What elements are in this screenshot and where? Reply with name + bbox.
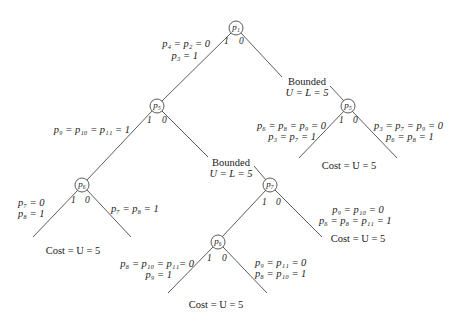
branch-label-p5l-zero: 0 [162,115,167,125]
bounded-mid-title: Bounded [204,157,258,168]
node-p6-left: p₆ [72,179,92,190]
annotation-p5r-right-line2: p₆ = p₈ = 1 [386,131,434,142]
annotation-p6b-left-line2: p₉ = 1 [120,269,172,280]
annotation-p6l-left-line1: p₇ = 0 [18,197,45,208]
branch-label-p5r-one: 1 [339,115,344,125]
branch-label-p5r-zero: 0 [353,115,358,125]
branch-label-p6l-zero: 0 [85,195,90,205]
annotation-p7-right-line2: p₆ = p₈ = p₁₁ = 1 [319,215,392,226]
annotation-root-left-line2: p₃ = 1 [140,50,198,61]
edge-p7-p6 [222,190,266,237]
edge-p1-bounded [241,33,282,77]
branch-label-p5l-one: 1 [147,115,152,125]
edge-p5l-p6 [87,111,152,180]
node-p6-bottom: p₆ [208,236,228,247]
branch-label-p6l-one: 1 [71,195,76,205]
annotation-p7-right-line1: p₉ = p₁₀ = 0 [318,204,398,215]
cost-p5r: Cost = U = 5 [310,160,388,171]
branch-label-p6b-zero: 0 [222,253,227,263]
edge-p7-right-leaf [275,190,322,237]
bounded-mid-value: U = L = 5 [204,168,258,179]
annotation-p5r-left-line2: p₃ = p₇ = 1 [250,131,316,142]
cost-p6b: Cost = U = 5 [180,299,252,310]
branch-label-p7-zero: 0 [276,197,281,207]
annotation-root-left-line1: p₄ = p₂ = 0 [140,38,210,49]
annotation-p6l-right: p₇ = p₈ = 1 [111,203,159,214]
node-p5-left: p₅ [147,100,167,111]
annotation-p6l-left-line2: p₈ = 1 [18,208,45,219]
branch-label-p1-one: 1 [224,36,229,46]
annotation-p5r-right-line1: p₃ = p₇ = p₉ = 0 [374,120,443,131]
node-p7: p₇ [260,179,280,190]
cost-p7: Cost = U = 5 [322,233,394,244]
branch-label-p6b-one: 1 [207,253,212,263]
annotation-p6b-left-line1: p₈ = p₁₀ = p₁₁= 0 [120,258,194,269]
annotation-p6b-right-line1: p₉ = p₁₁ = 0 [255,257,306,268]
branch-and-bound-tree: p₁ p₅ p₅ p₆ p₇ p₆ 1 0 1 0 1 0 1 0 1 0 1 … [0,0,463,325]
branch-label-p1-zero: 0 [239,36,244,46]
node-p1: p₁ [226,22,246,33]
node-p5-right: p₅ [338,100,358,111]
annotation-p5l-left: p₉ = p₁₀ = p₁₁ = 1 [50,124,130,135]
bounded-right-title: Bounded [280,76,334,87]
bounded-right-value: U = L = 5 [280,87,334,98]
annotation-p5r-left-line1: p₆ = p₈ = p₉ = 0 [250,120,326,131]
annotation-p6b-right-line2: p₈ = p₁₀ = 1 [255,268,306,279]
edge-p5l-bounded [162,111,208,157]
branch-label-p7-one: 1 [262,197,267,207]
cost-p6l: Cost = U = 5 [33,245,113,256]
